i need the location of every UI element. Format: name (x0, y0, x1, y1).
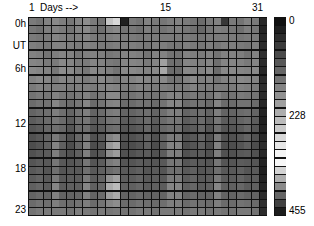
day-end-label: 31 (252, 2, 263, 14)
hour-label-23: 23 (0, 204, 26, 215)
heatmap-cells (28, 17, 267, 216)
colorbar-mid-label: 228 (289, 110, 306, 121)
hour-label-6h: 6h (0, 63, 26, 74)
days-axis: 1 Days --> 15 31 (0, 1, 314, 16)
hour-label-ut: UT (0, 40, 26, 51)
hour-label-0h: 0h (0, 18, 26, 29)
colorbar-min-label: 0 (289, 15, 295, 26)
ionogram-heatmap-figure: 1 Days --> 15 31 0hUT6h121823 0 228 455 (0, 0, 314, 226)
day-start-label: 1 (29, 2, 35, 14)
value-colorbar (274, 17, 286, 216)
days-axis-title: Days --> (40, 2, 78, 14)
hour-label-12: 12 (0, 118, 26, 129)
colorbar-max-label: 455 (289, 205, 306, 216)
heatmap-plot-area (28, 17, 267, 216)
colorbar-gradient (274, 17, 286, 216)
hour-label-18: 18 (0, 163, 26, 174)
day-mid-label: 15 (160, 2, 171, 14)
